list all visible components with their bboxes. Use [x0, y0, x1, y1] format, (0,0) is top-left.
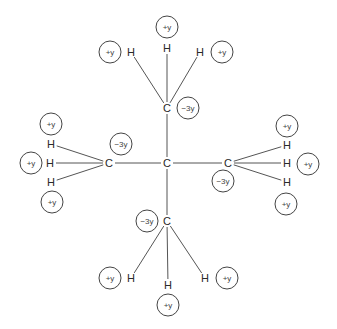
bond-C2-H2a [57, 146, 104, 161]
atom-labels: CCCCCHHHHHHHHHHHH [46, 42, 291, 291]
charge-label: +y [304, 160, 313, 169]
charge-label: +y [48, 198, 57, 207]
charge-label: −3y [181, 104, 194, 113]
hydrogen-atom: H [163, 42, 171, 54]
charge-label: −3y [114, 140, 127, 149]
charge-label: +y [283, 122, 292, 131]
hydrogen-atom: H [164, 279, 172, 291]
charge-label: +y [47, 120, 56, 129]
charge-label: +y [163, 23, 172, 32]
hydrogen-atom: H [283, 139, 291, 151]
charge-label: +y [27, 159, 36, 168]
molecule-diagram: −3y−3y−3y−3y+y+y+y+y+y+y+y+y+y+y+y+y CCC… [0, 0, 337, 329]
charge-label: −3y [140, 217, 153, 226]
charge-label: +y [218, 48, 227, 57]
hydrogen-atom: H [127, 272, 135, 284]
charge-label: +y [282, 200, 291, 209]
charge-label: +y [106, 48, 115, 57]
carbon-atom: C [105, 157, 113, 169]
carbon-atom: C [163, 157, 171, 169]
bond-C3-H3c [234, 165, 282, 180]
bond-C4-H4b [167, 227, 168, 279]
charge-label: +y [164, 301, 173, 310]
charge-label: +y [106, 274, 115, 283]
bond-C1-H1b [134, 57, 164, 103]
hydrogen-atom: H [47, 176, 55, 188]
hydrogen-atom: H [196, 46, 204, 58]
hydrogen-atom: H [283, 157, 291, 169]
bond-C2-H2c [57, 165, 104, 180]
hydrogen-atom: H [127, 46, 135, 58]
carbon-atom: C [224, 157, 232, 169]
carbon-atom: C [163, 215, 171, 227]
carbon-atom: C [163, 102, 171, 114]
hydrogen-atom: H [46, 157, 54, 169]
hydrogen-atom: H [283, 176, 291, 188]
hydrogen-atom: H [47, 138, 55, 150]
charge-label: +y [223, 274, 232, 283]
hydrogen-atom: H [201, 272, 209, 284]
bond-C3-H3a [234, 147, 282, 161]
charge-label: −3y [216, 177, 229, 186]
bond-C4-H4a [134, 226, 164, 273]
bond-C1-H1c [170, 57, 197, 103]
bond-C4-H4c [170, 226, 201, 273]
